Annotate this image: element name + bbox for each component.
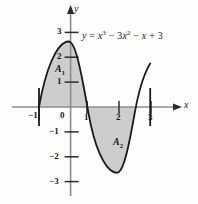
y-tick-label-neg2: −2 <box>49 151 59 161</box>
y-tick-label-neg1: −1 <box>49 126 59 136</box>
y-tick-label-3: 3 <box>57 26 62 36</box>
equation-annotation: y = x3 − 3x2 − x + 3 <box>82 29 163 41</box>
y-axis-label: y <box>74 3 78 14</box>
region-label-a2: A2 <box>113 136 123 149</box>
equation-op2: − <box>133 30 139 41</box>
equation-term4: 3 <box>158 30 163 41</box>
equation-equals: = <box>89 30 95 41</box>
x-tick-label-neg1: −1 <box>28 110 38 120</box>
equation-op3: + <box>149 30 155 41</box>
x-tick-label-0: 0 <box>60 110 65 120</box>
equation-op1: − <box>109 30 115 41</box>
region-label-a1-sub: 1 <box>62 69 65 76</box>
x-tick-label-3: 3 <box>148 112 153 122</box>
region-label-a1-text: A <box>55 63 62 74</box>
equation-term2-exponent: 2 <box>127 29 130 36</box>
region-label-a1: A1 <box>55 63 65 76</box>
y-tick-label-neg3: −3 <box>49 176 59 186</box>
region-label-a2-text: A <box>113 136 120 147</box>
y-tick-label-2: 2 <box>57 51 62 61</box>
x-axis-label: x <box>184 99 188 110</box>
region-label-a2-sub: 2 <box>120 142 123 149</box>
x-tick-label-2: 2 <box>116 112 121 122</box>
equation-term1-exponent: 3 <box>103 29 106 36</box>
equation-term3: x <box>142 30 147 41</box>
y-tick-label-1: 1 <box>57 76 62 86</box>
x-tick-label-1: 1 <box>84 112 89 122</box>
cubic-function-graph: x y 3 2 1 −1 −2 −3 −1 0 1 2 3 A1 A2 y = … <box>0 0 198 204</box>
equation-lhs: y <box>82 30 87 41</box>
x-axis-arrowhead <box>173 103 182 110</box>
